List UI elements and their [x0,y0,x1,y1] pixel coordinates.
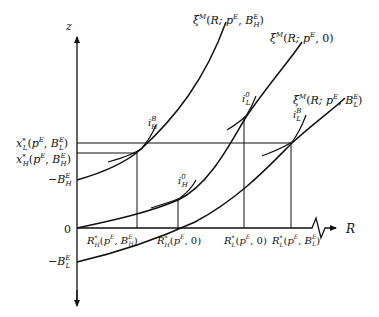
label-xi-BL: ξM(R; pE, BEL) [293,93,362,109]
svg-text:R*H(pE, BEH): R*H(pE, BEH) [86,233,138,248]
x-axis-label: R [345,222,355,236]
origin-label: 0 [64,223,71,236]
svg-text:x*L(pE, BEL): x*L(pE, BEL) [16,136,68,152]
svg-text:R*H(pE, 0): R*H(pE, 0) [156,233,201,248]
label-xi-BH: ξM(R; pE, BEH) [193,13,264,29]
label-iL0: i0L [242,91,251,107]
label-iLB: iBL [293,107,301,123]
svg-text:iBH: iBH [148,115,158,131]
ytick-xL-star: x*L(pE, BEL) [16,136,68,152]
svg-text:i0H: i0H [178,173,189,189]
svg-text:R*L(pE, BEL): R*L(pE, BEL) [271,233,320,248]
xtick-RH-BH: R*H(pE, BEH) [86,233,138,248]
svg-text:R*L(pE, 0): R*L(pE, 0) [223,233,267,248]
y-axis-label: z [65,20,72,33]
curve-xi-BH [77,22,226,180]
svg-text:−BEL: −BEL [48,254,70,270]
ytick-neg-BH: −BEH [48,172,72,188]
svg-text:iBL: iBL [293,107,301,123]
xtick-RH-0: R*H(pE, 0) [156,233,201,248]
svg-text:ξM(R; pE, BEL): ξM(R; pE, BEL) [293,93,362,109]
xtick-RL-BL: R*L(pE, BEL) [271,233,320,248]
label-xi-0: ξM(R; pE, 0) [270,31,333,45]
svg-text:x*H(pE, BEH): x*H(pE, BEH) [16,152,71,168]
economic-diagram: z R 0 ξM(R; pE, BEH) ξM(R; pE, 0) ξM(R; … [0,0,379,317]
svg-text:ξM(R; pE, BEH): ξM(R; pE, BEH) [193,13,264,29]
svg-text:ξM(R; pE, 0): ξM(R; pE, 0) [270,31,333,45]
xtick-RL-0: R*L(pE, 0) [223,233,267,248]
svg-text:i0L: i0L [242,91,251,107]
svg-text:−BEH: −BEH [48,172,72,188]
label-iH0: i0H [178,173,189,189]
curve-xi-0 [77,42,302,228]
ytick-neg-BL: −BEL [48,254,70,270]
ytick-xH-star: x*H(pE, BEH) [16,152,71,168]
label-iHB: iBH [148,115,158,131]
